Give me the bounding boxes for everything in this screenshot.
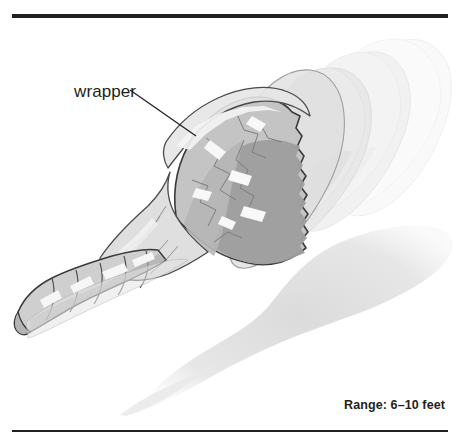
range-caption: Range: 6–10 feet bbox=[344, 398, 445, 412]
top-divider-rule bbox=[12, 14, 448, 18]
wrapper-callout-label: wrapper bbox=[74, 82, 136, 102]
wrapper-leader-line bbox=[130, 90, 196, 136]
illustration-svg bbox=[0, 20, 459, 420]
candy-wrapper-illustration bbox=[0, 20, 459, 420]
figure-page: wrapper Range: 6–10 feet bbox=[0, 0, 459, 446]
bottom-divider-rule bbox=[12, 430, 448, 432]
